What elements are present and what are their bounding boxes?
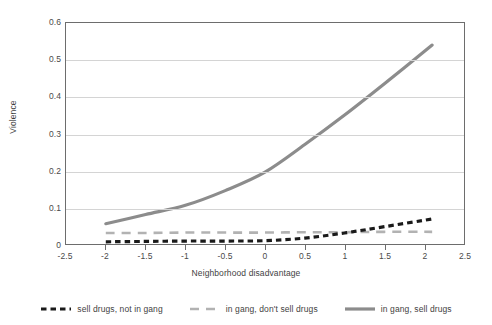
x-axis-tick-label: 1 [325, 251, 365, 261]
x-axis-title: Neighborhood disadvantage [0, 268, 492, 278]
x-axis-tickmark [265, 245, 266, 250]
x-axis-tick-label: 1.5 [365, 251, 405, 261]
y-axis-tick-label: 0.5 [28, 54, 61, 64]
gridline [66, 97, 464, 98]
plot-area [65, 22, 465, 245]
y-axis-tick-label: 0.3 [28, 129, 61, 139]
legend-swatch [189, 304, 221, 314]
x-axis-tickmark [145, 245, 146, 250]
x-axis-tickmark [105, 245, 106, 250]
legend-label: sell drugs, not in gang [77, 304, 162, 314]
x-axis-tickmark [305, 245, 306, 250]
gridline [66, 209, 464, 210]
x-axis-tick-label: -0.5 [205, 251, 245, 261]
legend-swatch [40, 304, 72, 314]
x-axis-tick-label: -2.5 [45, 251, 85, 261]
y-axis-tick-label: 0 [28, 240, 61, 250]
x-axis-tick-label: -1 [165, 251, 205, 261]
x-axis-tickmark [185, 245, 186, 250]
x-axis-tickmark [385, 245, 386, 250]
x-axis-tick-label: -1.5 [125, 251, 165, 261]
chart-legend: sell drugs, not in gangin gang, don't se… [0, 300, 492, 318]
y-axis-tick-label: 0.4 [28, 91, 61, 101]
legend-item[interactable]: sell drugs, not in gang [40, 304, 162, 314]
y-axis-tick-label: 0.2 [28, 166, 61, 176]
x-axis-tick-label: 0 [245, 251, 285, 261]
x-axis-tickmark [425, 245, 426, 250]
x-axis-tick-label: 2 [405, 251, 445, 261]
x-axis-tickmark [225, 245, 226, 250]
legend-item[interactable]: in gang, sell drugs [344, 304, 452, 314]
violence-line-chart: Violence 00.10.20.30.40.50.6 Neighborhoo… [0, 0, 492, 325]
legend-item[interactable]: in gang, don't sell drugs [189, 304, 318, 314]
x-axis-tickmark [345, 245, 346, 250]
x-axis-tick-label: -2 [85, 251, 125, 261]
legend-label: in gang, sell drugs [381, 304, 452, 314]
legend-label: in gang, don't sell drugs [226, 304, 318, 314]
y-axis-tick-label: 0.1 [28, 203, 61, 213]
y-axis-tick-label: 0.6 [28, 17, 61, 27]
series-container [66, 23, 464, 244]
series-line [106, 219, 432, 242]
x-axis-tick-label: 2.5 [445, 251, 485, 261]
gridline [66, 60, 464, 61]
x-axis-tick-label: 0.5 [285, 251, 325, 261]
gridline [66, 172, 464, 173]
y-axis-title: Violence [8, 77, 18, 157]
legend-swatch [344, 304, 376, 314]
gridline [66, 135, 464, 136]
series-line [106, 232, 432, 233]
